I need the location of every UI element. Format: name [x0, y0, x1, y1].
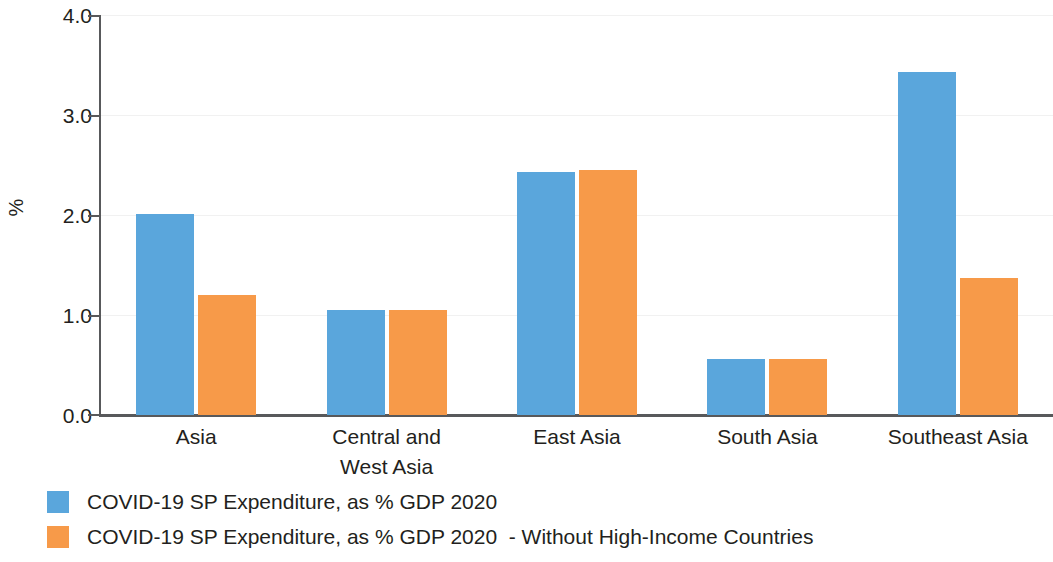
- bar-group: [327, 15, 447, 415]
- x-axis-label-line: Central and: [291, 422, 481, 452]
- y-tick-label-1: 1.0: [30, 305, 92, 326]
- x-axis-label-line: Asia: [101, 422, 291, 452]
- x-axis-label-line: South Asia: [672, 422, 862, 452]
- legend-swatch-icon-blue: [47, 491, 69, 513]
- y-tick-label-2: 2.0: [30, 205, 92, 226]
- bars-container: [101, 15, 1053, 415]
- bar-orange[interactable]: [579, 170, 637, 415]
- x-axis-label: South Asia: [672, 422, 862, 452]
- bar-orange[interactable]: [960, 278, 1018, 415]
- bar-blue[interactable]: [517, 172, 575, 415]
- chart-legend: COVID-19 SP Expenditure, as % GDP 2020 C…: [47, 484, 1047, 554]
- bar-group: [136, 15, 256, 415]
- bar-blue[interactable]: [136, 214, 194, 415]
- y-tick-label-3: 3.0: [30, 105, 92, 126]
- x-axis-label-line: Southeast Asia: [863, 422, 1053, 452]
- bar-orange[interactable]: [769, 359, 827, 415]
- legend-item-blue: COVID-19 SP Expenditure, as % GDP 2020: [47, 484, 1047, 519]
- bar-orange[interactable]: [389, 310, 447, 415]
- bar-chart-figure: % 4.0 3.0 2.0 1.0 0.0 AsiaCentral andWes…: [0, 0, 1053, 562]
- plot-area: % 4.0 3.0 2.0 1.0 0.0 AsiaCentral andWes…: [0, 0, 1053, 430]
- legend-label-orange: COVID-19 SP Expenditure, as % GDP 2020 -…: [87, 525, 813, 549]
- y-tick-mark-4: [88, 15, 99, 17]
- y-tick-label-4: 4.0: [30, 5, 92, 26]
- x-axis-label-line: East Asia: [482, 422, 672, 452]
- legend-swatch-icon-orange: [47, 526, 69, 548]
- bar-blue[interactable]: [327, 310, 385, 415]
- x-axis-label-line: West Asia: [291, 452, 481, 482]
- bar-blue[interactable]: [898, 72, 956, 415]
- y-tick-label-0: 0.0: [30, 405, 92, 426]
- y-axis-tick-labels: 4.0 3.0 2.0 1.0 0.0: [30, 0, 92, 430]
- y-tick-mark-0: [88, 414, 99, 416]
- legend-label-blue: COVID-19 SP Expenditure, as % GDP 2020: [87, 490, 497, 514]
- x-axis-label: Asia: [101, 422, 291, 452]
- bar-blue[interactable]: [707, 359, 765, 415]
- x-axis-label: Central andWest Asia: [291, 422, 481, 482]
- y-axis-title: %: [5, 199, 28, 217]
- legend-item-orange: COVID-19 SP Expenditure, as % GDP 2020 -…: [47, 519, 1047, 554]
- x-axis-category-labels: AsiaCentral andWest AsiaEast AsiaSouth A…: [101, 422, 1053, 492]
- y-tick-mark-3: [88, 115, 99, 117]
- bar-orange[interactable]: [198, 295, 256, 415]
- bar-group: [517, 15, 637, 415]
- bar-group: [707, 15, 827, 415]
- y-tick-mark-2: [88, 215, 99, 217]
- bar-group: [898, 15, 1018, 415]
- y-tick-mark-1: [88, 315, 99, 317]
- x-axis-label: East Asia: [482, 422, 672, 452]
- x-axis-label: Southeast Asia: [863, 422, 1053, 452]
